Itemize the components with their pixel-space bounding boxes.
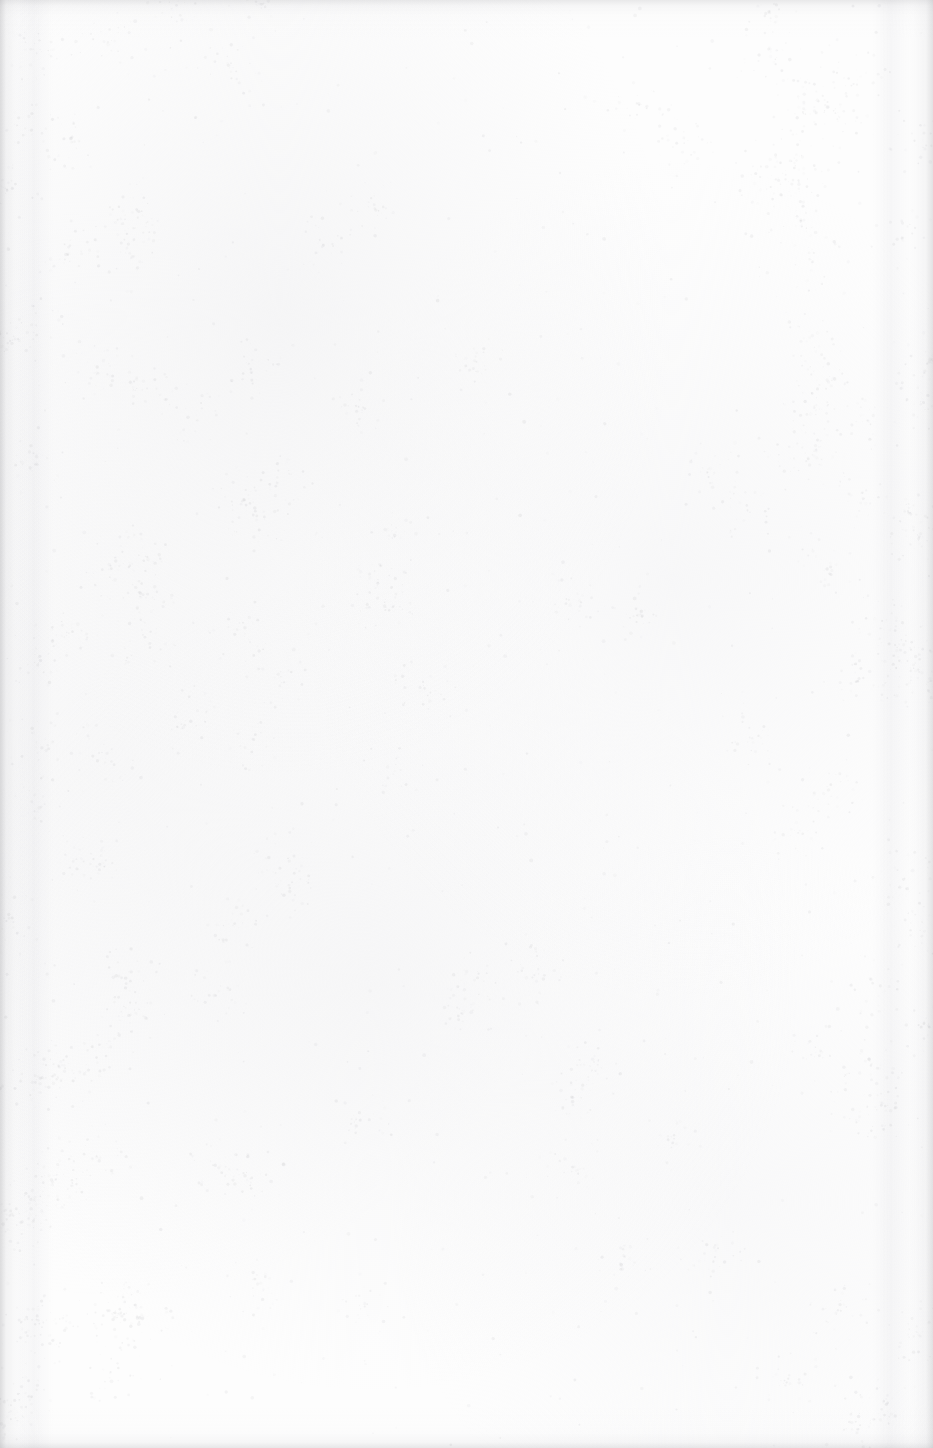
scanned-page bbox=[0, 0, 933, 1448]
page-content-area bbox=[96, 110, 837, 1338]
